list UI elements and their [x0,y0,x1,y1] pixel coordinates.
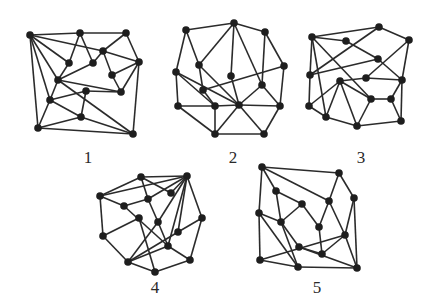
graph-edge [30,35,58,80]
graph-edge [86,91,121,92]
graph-node [227,72,235,80]
graph-node [77,113,85,121]
graph-node [195,61,203,69]
graph-node [362,74,370,82]
graph-node [96,192,104,200]
graph-node [154,218,162,226]
graph-edge [231,23,234,76]
graph-node [276,102,284,110]
graph-edge [133,62,139,134]
graph-edge [366,78,402,80]
graph-node [258,81,266,89]
graph-edge [280,66,284,106]
graph-edge [234,23,265,32]
graph-edge [178,106,215,134]
graph-edge [345,198,354,235]
graph-edge [239,85,262,105]
graph-edge [203,66,284,90]
graph-node [341,231,349,239]
graph-label-2: 2 [229,148,238,168]
graph-node [342,37,350,45]
graph-node [398,76,406,84]
graph-node [277,218,285,226]
graph-edge [58,80,133,134]
graph-node [120,202,128,210]
graph-edge [310,27,379,75]
graph-label-4: 4 [151,278,160,298]
graph-edge [354,198,357,268]
graph-node [89,59,97,67]
graph-edge [103,236,128,262]
graph-edge [168,246,190,260]
graph-edge [239,105,280,106]
graph-edge [103,51,112,75]
graph-node [99,232,107,240]
graph-node [183,172,191,180]
graph-node [34,124,42,132]
graph-edge [262,85,280,106]
graph-edge [281,222,299,247]
graph-node [124,258,132,266]
graph-node [54,76,62,84]
graph-node [260,130,268,138]
graph-node [335,169,343,177]
graph-edge [299,247,357,268]
graph-edge [357,99,371,126]
graph-node [164,242,172,250]
graph-node [306,71,314,79]
graph-edge [50,100,81,117]
graph-node [375,23,383,31]
graph-node [82,87,90,95]
graph-edge [378,59,402,80]
graph-edge [379,27,409,40]
graph-node [135,58,143,66]
graph-edge [186,30,199,65]
graph-node [405,36,413,44]
graph-edge [81,91,86,117]
graph-edge [310,37,312,75]
graph-node [318,250,326,258]
graph-edge [319,227,322,254]
graph-node [129,130,137,138]
graph-edge [276,191,302,204]
graph-node [280,62,288,70]
graph-node [295,243,303,251]
graph-edge [281,222,298,267]
graph-node [46,96,54,104]
graph-node [272,187,280,195]
graph-edge [401,80,402,121]
graph-edge [103,218,139,236]
graph-node [198,214,206,222]
graph-node [387,95,395,103]
graph-label-3: 3 [357,148,366,168]
graph-edge [329,201,345,235]
graph-node [322,113,330,121]
graph-node [172,68,180,76]
graph-edge [326,117,357,126]
graph-node [137,173,145,181]
graph-edge [69,33,80,63]
graph-edge [340,81,357,126]
graph-node [167,189,175,197]
graph-edge [329,173,339,201]
graph-edge [319,201,329,227]
graph-node [305,102,313,110]
graph-node [315,223,323,231]
graph-edge [259,213,260,260]
graph-node [65,59,73,67]
graph-node [151,268,159,276]
graph-node [99,47,107,55]
graph-edge [215,105,239,134]
graph-edge [302,204,319,227]
graph-node [144,195,152,203]
graph-edge [30,33,80,35]
graph-node [135,214,143,222]
graph-node [397,117,405,125]
graph-node [325,197,333,205]
graph-node [235,101,243,109]
graph-node [182,26,190,34]
graph-edge [103,51,139,62]
graph-edge [187,176,202,218]
graph-node [255,209,263,217]
graph-node [122,29,130,37]
